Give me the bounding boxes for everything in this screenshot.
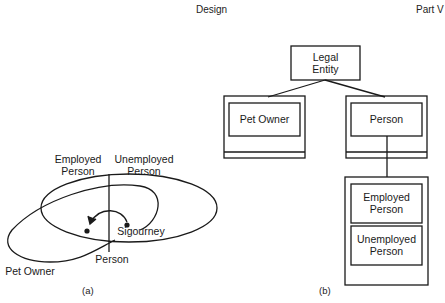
label-pet-owner-set: Pet Owner [2,265,58,277]
connector-legal-to-person [325,80,385,97]
label-line: Person [351,203,422,215]
caption-a: (a) [82,285,94,296]
node-unemployed-person-label: Unemployed Person [351,233,422,257]
label-line: Entity [291,63,360,75]
label-line: Employed [48,153,108,165]
node-person-label: Person [351,113,422,125]
connector-legal-to-petowner [268,80,325,97]
pet-owner-outer-box [224,96,305,158]
label-line: Person [110,165,178,177]
label-sigourney: Sigourney [113,225,169,237]
diagram-canvas [0,0,445,303]
label-employed-person: Employed Person [48,153,108,177]
label-unemployed-person: Unemployed Person [110,153,178,177]
caption-b: (b) [319,285,331,296]
label-line: Unemployed [110,153,178,165]
node-employed-person-label: Employed Person [351,191,422,215]
sigourney-dot-target [84,228,89,233]
label-line: Person [48,165,108,177]
label-line: Person [351,245,422,257]
node-legal-entity-label: Legal Entity [291,51,360,75]
node-pet-owner-label: Pet Owner [229,113,300,125]
label-line: Unemployed [351,233,422,245]
pet-owner-set-curve [8,185,158,262]
label-line: Legal [291,51,360,63]
label-line: Employed [351,191,422,203]
label-person-set: Person [92,253,132,265]
